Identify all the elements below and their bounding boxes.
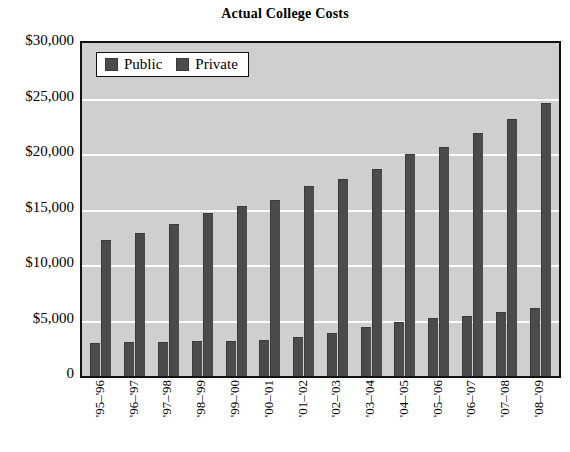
bar-group: [219, 43, 253, 376]
x-axis-tick: '07–'08: [487, 380, 521, 452]
bar-group: [523, 43, 557, 376]
x-axis-tick-label: '01–'02: [295, 380, 308, 417]
chart-container: Actual College Costs $30,000$25,000$20,0…: [0, 0, 570, 452]
bar-private[interactable]: [372, 169, 382, 376]
x-axis-tick-label: '97–'98: [160, 380, 173, 417]
x-axis-tick-label: '05–'06: [430, 380, 443, 417]
legend-swatch-public: [105, 58, 118, 71]
y-axis-tick-label: $30,000: [0, 33, 74, 48]
legend-label: Public: [124, 57, 162, 72]
y-axis-tick-label: $5,000: [0, 311, 74, 326]
bar-public[interactable]: [361, 327, 371, 376]
bar-public[interactable]: [226, 341, 236, 376]
y-axis-tick-label: $10,000: [0, 255, 74, 270]
x-axis-tick: '96–'97: [116, 380, 150, 452]
bar-private[interactable]: [439, 147, 449, 376]
bar-group: [152, 43, 186, 376]
legend-label: Private: [195, 57, 238, 72]
chart-title: Actual College Costs: [0, 6, 570, 22]
bar-public[interactable]: [462, 316, 472, 376]
bar-public[interactable]: [158, 342, 168, 376]
bar-public[interactable]: [124, 342, 134, 376]
bar-public[interactable]: [496, 312, 506, 376]
bar-group: [185, 43, 219, 376]
bar-public[interactable]: [428, 318, 438, 376]
x-axis-tick: '97–'98: [150, 380, 184, 452]
y-axis-tick-label: 0: [0, 366, 74, 381]
bar-public[interactable]: [530, 308, 540, 376]
y-axis-tick-label: $25,000: [0, 89, 74, 104]
x-axis-tick-label: '96–'97: [126, 380, 139, 417]
legend-item[interactable]: Public: [105, 57, 162, 72]
bar-private[interactable]: [405, 154, 415, 376]
bar-group: [253, 43, 287, 376]
x-axis-tick: '05–'06: [420, 380, 454, 452]
bars-layer: [82, 43, 559, 376]
bar-group: [388, 43, 422, 376]
x-axis-tick-label: '08–'09: [532, 380, 545, 417]
x-axis-tick: '02–'03: [318, 380, 352, 452]
x-axis-tick-label: '98–'99: [194, 380, 207, 417]
bar-private[interactable]: [270, 200, 280, 376]
x-axis-tick: '04–'05: [386, 380, 420, 452]
x-axis-tick-label: '07–'08: [498, 380, 511, 417]
x-axis-tick: '98–'99: [183, 380, 217, 452]
bar-group: [354, 43, 388, 376]
x-axis-tick: '95–'96: [82, 380, 116, 452]
x-axis: '95–'96'96–'97'97–'98'98–'99'99–'00'00–'…: [80, 380, 557, 452]
bar-private[interactable]: [237, 206, 247, 376]
x-axis-tick-label: '06–'07: [464, 380, 477, 417]
legend-swatch-private: [176, 58, 189, 71]
bar-private[interactable]: [101, 240, 111, 376]
bar-group: [456, 43, 490, 376]
bar-group: [489, 43, 523, 376]
x-axis-tick-label: '04–'05: [396, 380, 409, 417]
legend-item[interactable]: Private: [176, 57, 238, 72]
chart-legend: PublicPrivate: [96, 52, 249, 77]
bar-public[interactable]: [394, 322, 404, 376]
bar-public[interactable]: [192, 341, 202, 376]
bar-private[interactable]: [169, 224, 179, 376]
x-axis-tick-label: '02–'03: [329, 380, 342, 417]
bar-public[interactable]: [90, 343, 100, 376]
bar-group: [118, 43, 152, 376]
bar-private[interactable]: [338, 179, 348, 376]
y-axis-tick-label: $15,000: [0, 200, 74, 215]
x-axis-tick: '01–'02: [285, 380, 319, 452]
bar-group: [422, 43, 456, 376]
bar-public[interactable]: [293, 337, 303, 376]
x-axis-tick: '06–'07: [454, 380, 488, 452]
bar-public[interactable]: [259, 340, 269, 376]
x-axis-tick-label: '03–'04: [363, 380, 376, 417]
x-axis-tick-label: '95–'96: [92, 380, 105, 417]
plot-area: [80, 41, 561, 378]
bar-private[interactable]: [203, 213, 213, 376]
bar-private[interactable]: [304, 186, 314, 376]
bar-private[interactable]: [507, 119, 517, 376]
x-axis-tick: '00–'01: [251, 380, 285, 452]
x-axis-tick-label: '99–'00: [228, 380, 241, 417]
y-axis-tick-label: $20,000: [0, 144, 74, 159]
bar-private[interactable]: [541, 103, 551, 376]
x-axis-tick-label: '00–'01: [261, 380, 274, 417]
x-axis-tick: '08–'09: [521, 380, 555, 452]
x-axis-tick: '03–'04: [352, 380, 386, 452]
bar-group: [84, 43, 118, 376]
bar-private[interactable]: [473, 133, 483, 376]
y-axis: $30,000$25,000$20,000$15,000$10,000$5,00…: [0, 0, 74, 452]
bar-group: [320, 43, 354, 376]
x-axis-tick: '99–'00: [217, 380, 251, 452]
bar-group: [287, 43, 321, 376]
bar-public[interactable]: [327, 333, 337, 376]
bar-private[interactable]: [135, 233, 145, 376]
